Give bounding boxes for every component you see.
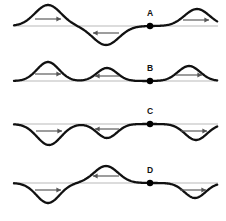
direction-arrow-a-1-right <box>35 16 61 21</box>
direction-arrow-d-2-left <box>93 173 119 178</box>
arrow-head <box>204 17 209 22</box>
arrow-head <box>93 30 98 35</box>
wave-row-a: A <box>14 5 218 45</box>
direction-arrow-b-1-right <box>35 71 61 76</box>
arrow-head <box>56 187 61 192</box>
marker-label-d: D <box>147 165 153 175</box>
wave-curve-b <box>14 62 217 81</box>
direction-arrow-c-2-left <box>95 126 119 131</box>
marker-dot-a <box>147 23 153 29</box>
marker-dot-d <box>147 180 153 186</box>
direction-arrow-a-3-right <box>183 17 209 22</box>
direction-arrow-d-1-right <box>35 187 61 192</box>
wave-pulse-figure: ABCD <box>0 0 226 221</box>
marker-dot-c <box>147 121 153 127</box>
wave-curve-c <box>14 124 217 145</box>
marker-dot-b <box>147 78 153 84</box>
wave-curve-a <box>14 5 217 45</box>
marker-label-b: B <box>147 63 153 73</box>
wave-row-b: B <box>14 62 218 84</box>
arrow-head <box>57 128 62 133</box>
direction-arrow-b-3-right <box>176 72 202 77</box>
wave-rows-group: ABCD <box>14 5 218 203</box>
direction-arrow-a-2-left <box>93 30 119 35</box>
arrow-head <box>56 16 61 21</box>
marker-label-c: C <box>147 106 153 116</box>
wave-row-c: C <box>14 106 218 145</box>
wave-curve-d <box>14 166 217 203</box>
wave-row-d: D <box>14 165 218 203</box>
direction-arrow-c-1-right <box>36 128 62 133</box>
marker-label-a: A <box>147 8 153 18</box>
direction-arrow-b-2-left <box>95 73 119 78</box>
